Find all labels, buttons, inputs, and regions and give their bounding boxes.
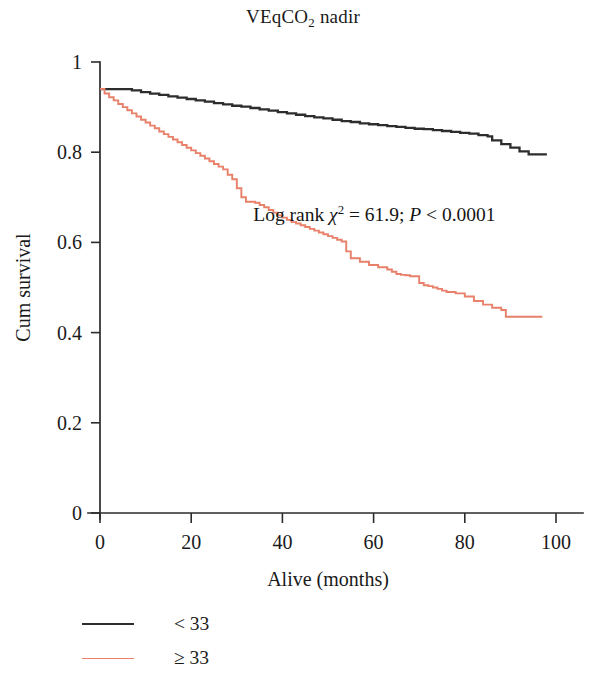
y-axis-tick-label: 1 [72,51,82,73]
annotation-mid: = 61.9; [344,204,409,225]
legend-line-swatch-black [82,623,134,625]
plot-area: 00.20.40.60.81020406080100Alive (months)… [0,0,606,677]
legend-line-swatch-salmon [82,658,134,659]
x-axis-tick-label: 40 [272,531,292,553]
p-symbol: P [409,204,421,225]
y-axis-tick-label: 0 [72,502,82,524]
survival-curve-figure: VEqCO2 nadir 00.20.40.60.81020406080100A… [0,0,606,677]
legend-item-below-33: < 33 [76,607,376,641]
axis-labels-group: 00.20.40.60.81020406080100Alive (months)… [12,51,571,591]
x-axis-title: Alive (months) [267,568,389,591]
chi-symbol: χ [329,204,338,225]
legend-label-above-33: ≥ 33 [174,648,209,668]
survival-curve-below-33 [100,89,547,154]
chi-exponent: 2 [338,203,344,217]
annotation-lead: Log rank [253,204,329,225]
annotation-tail: < 0.0001 [421,204,495,225]
y-axis-title: Cum survival [12,233,34,342]
log-rank-annotation: Log rank χ2 = 61.9; P < 0.0001 [253,204,495,226]
y-axis-tick-label: 0.2 [57,412,82,434]
legend: < 33 ≥ 33 [76,607,376,675]
x-axis-tick-label: 60 [364,531,384,553]
x-axis-tick-label: 20 [181,531,201,553]
y-axis-tick-label: 0.4 [57,322,82,344]
y-axis-tick-label: 0.8 [57,141,82,163]
x-axis-tick-label: 0 [95,531,105,553]
legend-item-above-33: ≥ 33 [76,641,376,675]
legend-label-below-33: < 33 [174,614,209,634]
x-axis-tick-label: 100 [541,531,571,553]
y-axis-tick-label: 0.6 [57,231,82,253]
x-axis-tick-label: 80 [455,531,475,553]
